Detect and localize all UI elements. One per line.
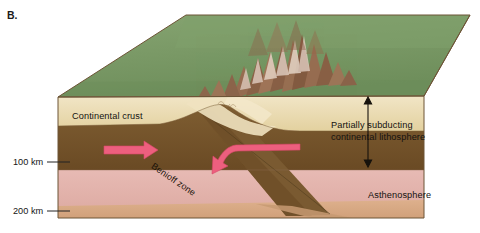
- depth-label-100km: 100 km: [13, 157, 43, 167]
- label-asthenosphere: Asthenosphere: [368, 190, 431, 202]
- block-diagram: B.: [0, 0, 480, 233]
- depth-label-200km: 200 km: [13, 206, 43, 216]
- label-partially-subducting-lithosphere: Partially subducting continental lithosp…: [331, 120, 425, 143]
- label-psl-line2: continental lithosphere: [331, 132, 425, 144]
- label-psl-line1: Partially subducting: [331, 120, 425, 132]
- label-continental-crust: Continental crust: [72, 111, 143, 123]
